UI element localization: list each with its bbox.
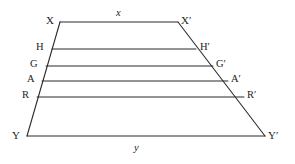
vertex-label-y: Y	[12, 130, 20, 141]
edge-right-leg	[178, 22, 265, 136]
chord-label-g-prime: G′	[216, 59, 226, 70]
vertex-label-y-prime: Y′	[268, 130, 278, 141]
chord-label-r-prime: R′	[247, 90, 256, 101]
chord-label-r: R	[22, 90, 29, 101]
chord-label-h: H	[36, 42, 44, 53]
chord-label-h-prime: H′	[200, 42, 210, 53]
geometry-figure: X X′ Y Y′ H H′ G G′ A A′ R R′ x y	[0, 0, 295, 164]
chord-label-a: A	[27, 74, 35, 85]
trapezoid-drawing	[0, 0, 295, 164]
trapezoid-outline	[27, 22, 265, 136]
vertex-label-x: X	[46, 15, 54, 26]
side-label-x-top: x	[116, 8, 121, 19]
vertex-label-x-prime: X′	[181, 15, 191, 26]
chord-label-a-prime: A′	[231, 74, 241, 85]
side-label-y-bottom: y	[134, 143, 139, 154]
chord-label-g: G	[30, 59, 38, 70]
parallel-chords	[37, 49, 244, 97]
